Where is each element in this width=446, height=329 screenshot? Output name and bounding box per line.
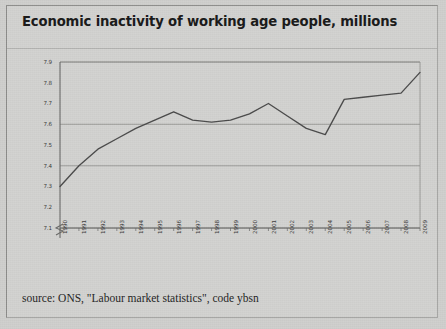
- x-axis-tick-label: 2006: [365, 220, 371, 234]
- chart-title: Economic inactivity of working age peopl…: [22, 14, 397, 29]
- chart-plot-area: 7.97.87.77.67.57.47.37.27.11990199119921…: [20, 56, 428, 261]
- y-axis-tick-label: 7.3: [34, 183, 52, 189]
- x-axis-tick-label: 2005: [346, 220, 352, 234]
- x-axis-tick-label: 1997: [195, 220, 201, 234]
- x-axis-tick-label: 1996: [176, 220, 182, 234]
- x-axis-tick-label: 2004: [327, 220, 333, 234]
- x-axis-tick-label: 1995: [157, 220, 163, 234]
- x-axis-tick-label: 1994: [138, 220, 144, 234]
- y-axis-tick-label: 7.8: [34, 80, 52, 86]
- x-axis-tick-label: 2001: [271, 220, 277, 234]
- y-axis-tick-label: 7.4: [34, 163, 52, 169]
- y-axis-tick-label: 7.1: [34, 225, 52, 231]
- source-caption: source: ONS, "Labour market statistics",…: [22, 292, 259, 304]
- x-axis-tick-label: 2008: [403, 220, 409, 234]
- title-divider: [7, 48, 437, 49]
- x-axis-tick-label: 2000: [252, 220, 258, 234]
- figure-page: Economic inactivity of working age peopl…: [0, 0, 446, 329]
- y-axis-tick-label: 7.7: [34, 100, 52, 106]
- x-axis-tick-label: 1992: [100, 220, 106, 234]
- x-axis-tick-label: 1991: [81, 220, 87, 234]
- y-axis-tick-label: 7.9: [34, 59, 52, 65]
- x-axis-tick-label: 1998: [214, 220, 220, 234]
- y-axis-tick-label: 7.6: [34, 121, 52, 127]
- x-axis-tick-label: 2003: [308, 220, 314, 234]
- x-axis-tick-label: 2009: [422, 220, 428, 234]
- y-axis-tick-label: 7.5: [34, 142, 52, 148]
- x-axis-tick-label: 2002: [289, 220, 295, 234]
- x-axis-tick-label: 1999: [233, 220, 239, 234]
- y-axis-tick-label: 7.2: [34, 204, 52, 210]
- x-axis-tick-label: 1993: [119, 220, 125, 234]
- x-axis-tick-label: 2007: [384, 220, 390, 234]
- x-axis-tick-label: 1990: [62, 220, 68, 234]
